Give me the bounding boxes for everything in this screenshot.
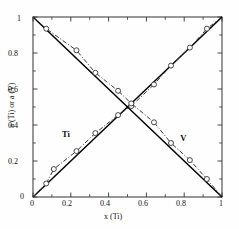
x-tick-label-0.8: 0.8 [176, 199, 186, 208]
y-tick-label-1: 1 [17, 14, 21, 23]
data-point-marker [168, 141, 173, 146]
series-label-ti: Ti [62, 129, 70, 139]
data-point-marker [93, 131, 98, 136]
x-tick-label-1: 1 [219, 199, 223, 208]
x-axis-label: x (Ti) [104, 212, 122, 221]
data-point-marker [151, 82, 156, 87]
data-point-marker [44, 181, 49, 186]
figure-container: 1 0.8 0.6 0.4 0.2 0 0 0.2 0.4 0.6 0.8 1 … [0, 0, 239, 229]
data-point-marker [116, 88, 121, 93]
y-tick-label-0.8: 0.8 [8, 49, 18, 58]
data-point-marker [129, 101, 134, 106]
data-point-marker [187, 45, 192, 50]
x-tick-label-0.6: 0.6 [138, 199, 148, 208]
data-point-marker [93, 70, 98, 75]
data-point-marker [151, 120, 156, 125]
series-label-v: V [180, 133, 186, 143]
y-axis-label-wrapper: a (Ti) or a (V) [0, 67, 18, 143]
data-point-marker [204, 177, 209, 182]
data-point-marker [74, 149, 79, 154]
data-point-marker [51, 167, 56, 172]
x-tick-label-0.4: 0.4 [100, 199, 110, 208]
y-tick-label-0.2: 0.2 [8, 157, 18, 166]
chart-canvas [0, 0, 239, 229]
data-point-marker [168, 63, 173, 68]
data-point-marker [187, 158, 192, 163]
y-axis-label: a (Ti) or a (V) [7, 82, 16, 127]
data-point-marker [116, 113, 121, 118]
x-tick-label-0.2: 0.2 [62, 199, 72, 208]
data-point-marker [74, 48, 79, 53]
data-point-marker [44, 26, 49, 31]
x-tick-label-0: 0 [30, 199, 34, 208]
y-tick-label-0: 0 [20, 192, 24, 201]
data-point-marker [204, 26, 209, 31]
